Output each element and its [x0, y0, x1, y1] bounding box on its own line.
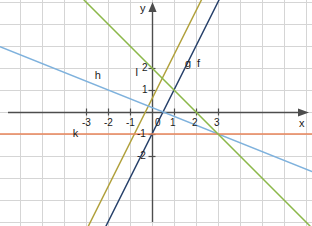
- curve-label-k: k: [73, 128, 79, 139]
- x-axis-arrowhead: [298, 108, 309, 116]
- curve-label-h: h: [95, 70, 101, 81]
- curve-label-g: g: [185, 58, 191, 69]
- y-tick-label: -2: [137, 151, 146, 161]
- x-tick-label: 2: [192, 118, 198, 128]
- axis-lines: [8, 2, 309, 222]
- x-tick-label: -2: [104, 118, 113, 128]
- x-tick-label: 1: [170, 118, 176, 128]
- y-tick-label: 1: [142, 85, 148, 95]
- x-tick-label: -3: [82, 118, 91, 128]
- y-tick-label: 2: [142, 63, 148, 73]
- plot-line-h: [0, 47, 312, 172]
- curve-label-l: l: [136, 67, 138, 78]
- y-axis-label: y: [140, 3, 146, 14]
- graph-canvas: [0, 0, 312, 226]
- x-tick-label: -1: [126, 118, 135, 128]
- curve-label-f: f: [197, 58, 200, 69]
- y-tick-label: -1: [137, 129, 146, 139]
- x-tick-label: 0: [155, 118, 161, 128]
- x-tick-label: 3: [214, 118, 220, 128]
- coordinate-plane-figure: -3-2-10123-2-112 fghkl x y: [0, 0, 312, 226]
- y-axis-arrowhead: [148, 2, 156, 12]
- x-axis-label: x: [299, 118, 305, 129]
